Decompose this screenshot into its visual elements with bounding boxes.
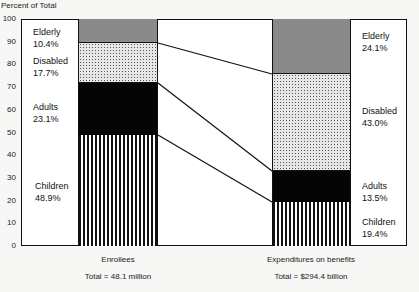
x-label-expenditures: Expenditures on benefits (231, 255, 391, 264)
x-label-enrollees: Enrollees (38, 255, 198, 264)
label-expenditures-adults: Adults 13.5% (362, 180, 388, 204)
connector-lines (0, 0, 419, 292)
label-expenditures-children: Children 19.4% (362, 216, 396, 240)
label-expenditures-disabled: Disabled 43.0% (362, 105, 397, 129)
label-enrollees-adults: Adults 23.1% (33, 101, 59, 125)
label-enrollees-children: Children 48.9% (35, 180, 69, 204)
x-total-enrollees: Total = 48.1 million (38, 272, 198, 281)
label-expenditures-elderly: Elderly 24.1% (362, 30, 390, 54)
label-enrollees-elderly: Elderly 10.4% (33, 26, 61, 50)
label-enrollees-disabled: Disabled 17.7% (33, 55, 68, 79)
x-total-expenditures: Total = $294.4 billion (231, 272, 391, 281)
